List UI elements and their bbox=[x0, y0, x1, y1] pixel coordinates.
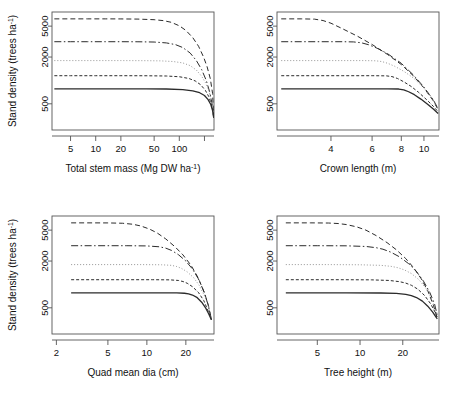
x-axis: 51020 bbox=[277, 340, 439, 358]
y-tick-label: 500 bbox=[265, 300, 276, 316]
series-curve-2-dashdot bbox=[71, 246, 211, 319]
x-axis-title: Tree height (m) bbox=[324, 367, 392, 378]
x-tick-label: 20 bbox=[181, 347, 192, 358]
x-tick-label: 20 bbox=[116, 143, 127, 154]
series-curve-2-dashdot bbox=[286, 246, 437, 316]
series-curve-4-shortdash bbox=[281, 76, 438, 112]
x-tick-label: 5 bbox=[315, 347, 320, 358]
series-curve-5-solid bbox=[71, 293, 211, 320]
plot-panel-top-left: 500200050005102050100Total stem mass (Mg… bbox=[0, 0, 224, 203]
series-curve-1-dashed bbox=[71, 223, 211, 320]
y-tick-label: 500 bbox=[265, 96, 276, 112]
x-tick-label: 50 bbox=[149, 143, 160, 154]
y-tick-label: 5000 bbox=[40, 16, 51, 37]
curve-group bbox=[286, 223, 437, 319]
x-axis: 46810 bbox=[277, 136, 439, 154]
x-tick-label: 100 bbox=[171, 143, 187, 154]
plot-frame bbox=[52, 216, 214, 334]
x-axis-title: Total stem mass (Mg DW ha-1) bbox=[66, 163, 201, 175]
y-axis-title: Stand density (trees ha-1) bbox=[7, 15, 19, 127]
series-curve-5-solid bbox=[281, 89, 438, 114]
y-axis-title: Stand density (trees ha-1) bbox=[7, 219, 19, 331]
x-axis-title-close: ) bbox=[197, 163, 200, 174]
series-curve-2-dashdot bbox=[281, 42, 438, 110]
figure-canvas: 500200050005102050100Total stem mass (Mg… bbox=[0, 0, 449, 407]
y-axis: 50020005000 bbox=[40, 16, 53, 112]
plot-panel-bottom-left: 50020005000251020Quad mean dia (cm)Stand… bbox=[0, 204, 224, 407]
x-tick-label: 4 bbox=[328, 143, 333, 154]
series-curve-1-dashed bbox=[54, 19, 213, 118]
curve-group bbox=[54, 19, 213, 118]
curve-group bbox=[281, 19, 438, 114]
x-tick-label: 20 bbox=[397, 347, 408, 358]
series-curve-3-dotted bbox=[71, 265, 211, 319]
plot-frame bbox=[52, 12, 214, 130]
x-tick-label: 6 bbox=[369, 143, 374, 154]
curve-group bbox=[71, 223, 211, 320]
x-tick-label: 2 bbox=[54, 347, 59, 358]
y-tick-label: 2000 bbox=[40, 250, 51, 271]
series-curve-1-dashed bbox=[281, 19, 438, 110]
y-tick-label: 5000 bbox=[40, 220, 51, 241]
series-curve-3-dotted bbox=[286, 265, 437, 315]
x-tick-label: 10 bbox=[355, 347, 366, 358]
series-curve-2-dashdot bbox=[54, 42, 213, 118]
x-tick-label: 10 bbox=[90, 143, 101, 154]
y-axis: 50020005000 bbox=[265, 220, 278, 316]
series-curve-3-dotted bbox=[281, 61, 438, 109]
y-axis-title-close: ) bbox=[7, 219, 18, 222]
series-curve-5-solid bbox=[54, 89, 213, 118]
y-tick-label: 500 bbox=[40, 96, 51, 112]
series-curve-4-shortdash bbox=[71, 280, 211, 320]
plot-panel-top-right: 5002000500046810Crown length (m) bbox=[225, 0, 449, 203]
y-tick-label: 2000 bbox=[40, 46, 51, 67]
x-axis: 251020 bbox=[52, 340, 214, 358]
x-tick-label: 5 bbox=[68, 143, 73, 154]
y-tick-label: 2000 bbox=[265, 46, 276, 67]
y-tick-label: 2000 bbox=[265, 250, 276, 271]
series-curve-4-shortdash bbox=[54, 76, 213, 118]
y-axis: 50020005000 bbox=[40, 220, 53, 316]
plot-frame bbox=[277, 12, 439, 130]
series-curve-1-dashed bbox=[286, 223, 437, 319]
series-curve-4-shortdash bbox=[286, 280, 437, 317]
series-curve-5-solid bbox=[286, 293, 437, 319]
x-axis: 5102050100 bbox=[52, 136, 214, 154]
y-axis-title-close: ) bbox=[7, 15, 18, 18]
x-tick-label: 10 bbox=[419, 143, 430, 154]
y-tick-label: 500 bbox=[40, 300, 51, 316]
y-tick-label: 5000 bbox=[265, 220, 276, 241]
y-tick-label: 5000 bbox=[265, 16, 276, 37]
x-tick-label: 10 bbox=[142, 347, 153, 358]
y-axis: 50020005000 bbox=[265, 16, 278, 112]
x-axis-title: Crown length (m) bbox=[320, 163, 397, 174]
x-tick-label: 8 bbox=[399, 143, 404, 154]
x-tick-label: 5 bbox=[105, 347, 110, 358]
x-axis-title: Quad mean dia (cm) bbox=[87, 367, 178, 378]
plot-panel-bottom-right: 5002000500051020Tree height (m) bbox=[225, 204, 449, 407]
plot-frame bbox=[277, 216, 439, 334]
